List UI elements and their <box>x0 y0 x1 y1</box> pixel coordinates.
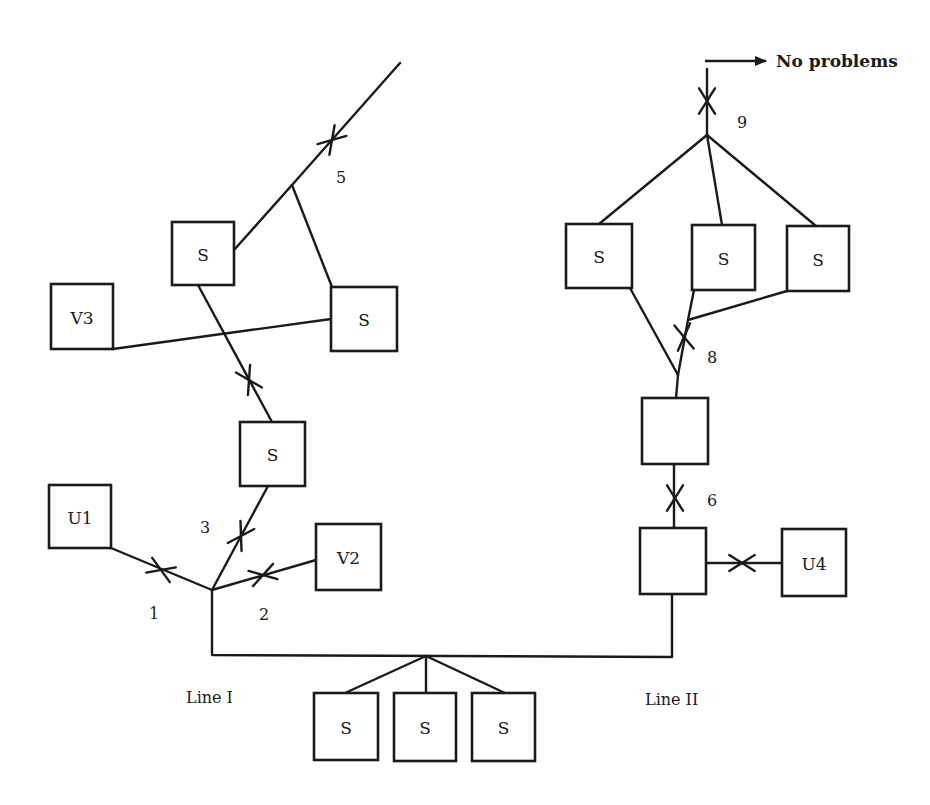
line-1-label: Line I <box>186 688 233 707</box>
node-s-mid-left: S <box>240 422 305 486</box>
breaker-number-label: 5 <box>336 168 346 187</box>
node-u1: U1 <box>49 485 111 548</box>
breaker-number-label: 2 <box>259 605 269 624</box>
node-v3: V3 <box>51 284 113 349</box>
edge-trunk-to-s-bottom-1 <box>345 656 426 693</box>
edge-s-right-a-to-merge <box>630 288 678 375</box>
node-label: S <box>419 718 431 738</box>
edge-v3-to-s-top-mid <box>113 319 331 349</box>
node-s-bottom-2: S <box>394 693 456 761</box>
status-annotation: No problems <box>776 51 898 71</box>
node-box <box>642 398 708 464</box>
station-nodes: SSV3SU1V2SSSU4SSS <box>49 222 849 761</box>
node-label: S <box>340 718 352 738</box>
edge-top-junction-to-s-right-b <box>707 135 722 225</box>
node-label: V2 <box>336 548 360 568</box>
node-label: V3 <box>69 308 93 328</box>
node-label: U1 <box>67 508 92 528</box>
node-label: S <box>498 718 510 738</box>
breaker-number-label: 3 <box>200 518 210 537</box>
cross-stroke <box>228 521 254 551</box>
cross-stroke <box>146 558 176 582</box>
breaker-x-icon <box>228 521 254 551</box>
node-s-top-mid: S <box>331 287 397 351</box>
edge-upper-box-to-merge <box>676 375 678 398</box>
breaker-number-label: 1 <box>149 604 159 623</box>
node-s-bottom-3: S <box>472 693 535 761</box>
node-box <box>640 528 706 594</box>
node-label: U4 <box>801 554 826 574</box>
edge-top-junction-to-s-right-c <box>707 135 816 226</box>
edge-feed-top-left <box>234 63 400 250</box>
cross-stroke <box>249 564 278 586</box>
node-box-right-lower <box>640 528 706 594</box>
node-label: S <box>267 445 279 465</box>
breaker-x-icon <box>146 558 176 582</box>
breaker-number-label: 9 <box>737 113 747 132</box>
breaker-number-label: 8 <box>707 348 717 367</box>
node-s-right-a: S <box>566 224 632 288</box>
node-s-right-b: S <box>692 225 755 290</box>
breaker-number-label: 6 <box>707 491 717 510</box>
connection-lines <box>111 63 816 693</box>
node-s-bottom-1: S <box>314 693 378 760</box>
breaker-x-icon <box>236 365 262 395</box>
node-label: S <box>718 249 730 269</box>
edge-junction-to-s-top-mid <box>292 185 332 287</box>
node-v2: V2 <box>316 524 381 590</box>
line-2-label: Line II <box>645 690 698 709</box>
node-label: S <box>197 245 209 265</box>
edge-s-top-left-to-s-mid-left <box>198 285 272 422</box>
node-label: S <box>593 247 605 267</box>
edge-s-right-c-to-merge <box>688 291 787 320</box>
node-u4: U4 <box>782 529 846 596</box>
edge-line-1-trunk <box>212 590 672 657</box>
node-s-top-left: S <box>172 222 234 285</box>
breaker-x-icon <box>249 564 278 586</box>
node-s-right-c: S <box>787 226 849 291</box>
edge-trunk-to-s-bottom-3 <box>426 656 505 693</box>
power-network-diagram: 1235689 SSV3SU1V2SSSU4SSS No problems Li… <box>0 0 930 805</box>
node-label: S <box>812 250 824 270</box>
node-label: S <box>358 310 370 330</box>
node-box-right-upper <box>642 398 708 464</box>
edge-top-junction-to-s-right-a <box>599 135 707 224</box>
diagram-labels: No problems Line I Line II <box>186 51 898 709</box>
